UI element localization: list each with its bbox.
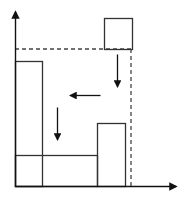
- blocks: [16, 19, 133, 187]
- wide-bottom-block: [16, 156, 98, 187]
- falling-square: [105, 19, 133, 50]
- dashed-guides: [15, 49, 132, 186]
- axes: [15, 12, 176, 187]
- right-block: [98, 124, 126, 187]
- motion-arrows: [58, 55, 118, 140]
- tall-left-block: [16, 62, 43, 187]
- diagram-canvas: [0, 0, 180, 198]
